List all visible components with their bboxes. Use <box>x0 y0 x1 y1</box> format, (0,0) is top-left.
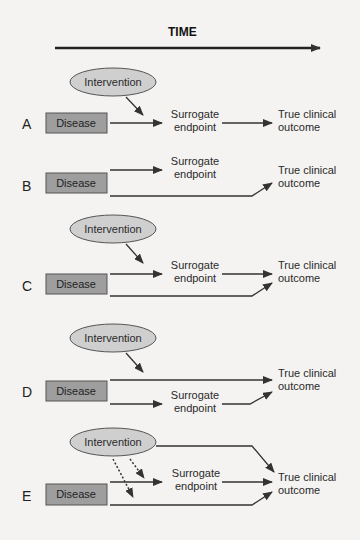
outcome-label: True clinical <box>278 108 336 120</box>
row-letter: C <box>22 278 32 294</box>
surrogate-label: Surrogate <box>171 389 219 401</box>
surrogate-label: Surrogate <box>171 155 219 167</box>
outcome-label: True clinical <box>278 259 336 271</box>
intervention-label: Intervention <box>84 436 141 448</box>
intervention-arrow <box>126 97 143 115</box>
outcome-label-2: outcome <box>278 272 320 284</box>
row-letter: E <box>22 488 31 504</box>
surrogate-label-2: endpoint <box>174 121 216 133</box>
dashed-arrow <box>113 459 133 497</box>
outcome-label-2: outcome <box>278 177 320 189</box>
surrogate-label: Surrogate <box>171 108 219 120</box>
surrogate-label-2: endpoint <box>175 480 217 492</box>
outcome-label-2: outcome <box>278 484 320 496</box>
disease-label: Disease <box>56 177 96 189</box>
intervention-label: Intervention <box>84 76 141 88</box>
outcome-label: True clinical <box>278 164 336 176</box>
row-letter: B <box>22 178 31 194</box>
row-letter: A <box>22 116 32 132</box>
disease-label: Disease <box>56 385 96 397</box>
time-title: TIME <box>168 25 197 39</box>
intervention-arrow <box>126 353 143 372</box>
surrogate-label-2: endpoint <box>174 402 216 414</box>
intervention-arrow <box>126 244 143 263</box>
row-e: Intervention E Disease Surrogate endpoin… <box>22 428 336 505</box>
surrogate-label: Surrogate <box>171 259 219 271</box>
intervention-label: Intervention <box>84 332 141 344</box>
row-b: B Disease Surrogate endpoint True clinic… <box>22 155 336 196</box>
arrow <box>110 283 272 296</box>
row-c: Intervention C Disease Surrogate endpoin… <box>22 215 336 296</box>
disease-label: Disease <box>56 488 96 500</box>
arrow <box>222 392 272 404</box>
outcome-label: True clinical <box>278 471 336 483</box>
row-letter: D <box>22 384 32 400</box>
surrogate-endpoint-diagram: TIME Intervention A Disease Surrogate en… <box>0 0 360 540</box>
outcome-label: True clinical <box>278 367 336 379</box>
surrogate-label-2: endpoint <box>174 272 216 284</box>
dashed-arrow <box>130 459 144 478</box>
intervention-label: Intervention <box>84 223 141 235</box>
arrow <box>110 492 272 505</box>
row-d: Intervention D Disease Surrogate endpoin… <box>22 324 336 414</box>
surrogate-label: Surrogate <box>172 467 220 479</box>
row-a: Intervention A Disease Surrogate endpoin… <box>22 68 336 133</box>
disease-label: Disease <box>56 117 96 129</box>
disease-label: Disease <box>56 278 96 290</box>
arrow <box>110 183 272 196</box>
outcome-label-2: outcome <box>278 121 320 133</box>
surrogate-label-2: endpoint <box>174 168 216 180</box>
outcome-label-2: outcome <box>278 380 320 392</box>
